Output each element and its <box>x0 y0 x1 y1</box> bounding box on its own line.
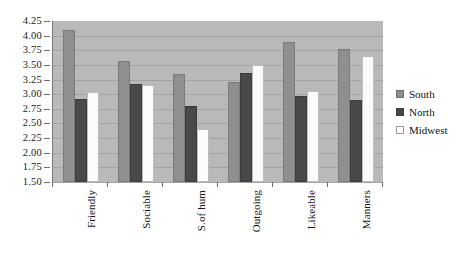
y-tick-mark <box>44 153 50 154</box>
x-category-label: Manners <box>360 190 372 229</box>
x-axis: FriendlySociableS.of humOutgoingLikeable… <box>52 182 383 262</box>
bar-friendly-midwest <box>87 92 99 182</box>
bar-likeable-south <box>283 42 295 182</box>
plot-area <box>52 21 383 183</box>
x-tick-mark <box>382 182 383 187</box>
bar-s-of-hum-midwest <box>197 129 209 182</box>
x-tick-mark <box>162 182 163 187</box>
x-tick-mark <box>217 182 218 187</box>
x-tick-mark <box>272 182 273 187</box>
x-category-label: Likeable <box>305 190 317 229</box>
legend-label: Midwest <box>409 124 448 136</box>
y-tick-label: 3.50 <box>23 60 42 70</box>
bar-sociable-north <box>130 84 142 182</box>
y-tick-label: 4.00 <box>23 31 42 41</box>
legend-item-north[interactable]: North <box>396 104 470 119</box>
bar-s-of-hum-south <box>173 74 185 182</box>
y-tick-label: 1.50 <box>23 177 42 187</box>
legend-label: South <box>409 88 435 100</box>
grouped-bar-chart: 4.254.003.753.503.253.002.752.502.252.00… <box>0 0 474 262</box>
y-tick-mark <box>44 109 50 110</box>
y-tick-label: 3.25 <box>23 75 42 85</box>
y-tick-label: 2.25 <box>23 133 42 143</box>
chart-legend: SouthNorthMidwest <box>396 86 470 140</box>
legend-item-midwest[interactable]: Midwest <box>396 122 470 137</box>
y-tick-label: 1.75 <box>23 162 42 172</box>
north-swatch <box>396 108 404 116</box>
bar-group <box>53 21 108 182</box>
y-tick-mark <box>44 167 50 168</box>
x-category-label: Friendly <box>85 190 97 228</box>
x-tick-mark <box>327 182 328 187</box>
bar-outgoing-midwest <box>252 65 264 182</box>
bar-manners-north <box>350 100 362 182</box>
bar-likeable-north <box>295 96 307 182</box>
x-tick-mark <box>52 182 53 187</box>
bar-group <box>273 21 328 182</box>
bar-friendly-north <box>75 99 87 182</box>
x-category-label: Sociable <box>140 190 152 229</box>
bar-group <box>218 21 273 182</box>
y-tick-label: 3.75 <box>23 45 42 55</box>
bar-s-of-hum-north <box>185 106 197 182</box>
y-tick-label: 3.00 <box>23 89 42 99</box>
bar-outgoing-north <box>240 73 252 182</box>
midwest-swatch <box>396 126 404 134</box>
bar-group <box>163 21 218 182</box>
south-swatch <box>396 90 404 98</box>
bars-layer <box>53 21 383 182</box>
y-tick-label: 2.50 <box>23 118 42 128</box>
bar-likeable-midwest <box>307 91 319 182</box>
bar-manners-south <box>338 49 350 182</box>
bar-group <box>108 21 163 182</box>
y-tick-mark <box>44 21 50 22</box>
y-tick-mark <box>44 138 50 139</box>
y-tick-mark <box>44 182 50 183</box>
bar-outgoing-south <box>228 82 240 182</box>
bar-manners-midwest <box>362 56 374 182</box>
y-tick-label: 4.25 <box>23 16 42 26</box>
y-axis: 4.254.003.753.503.253.002.752.502.252.00… <box>0 14 50 190</box>
bar-sociable-south <box>118 61 130 182</box>
y-tick-mark <box>44 36 50 37</box>
y-tick-mark <box>44 123 50 124</box>
bar-sociable-midwest <box>142 85 154 182</box>
bar-group <box>328 21 383 182</box>
x-category-label: Outgoing <box>250 190 262 232</box>
bar-friendly-south <box>63 30 75 182</box>
legend-item-south[interactable]: South <box>396 86 470 101</box>
legend-label: North <box>409 106 435 118</box>
x-category-label: S.of hum <box>195 190 207 231</box>
y-tick-label: 2.75 <box>23 104 42 114</box>
y-tick-mark <box>44 94 50 95</box>
y-tick-mark <box>44 80 50 81</box>
y-tick-mark <box>44 50 50 51</box>
y-tick-mark <box>44 65 50 66</box>
x-tick-mark <box>107 182 108 187</box>
y-tick-label: 2.00 <box>23 148 42 158</box>
